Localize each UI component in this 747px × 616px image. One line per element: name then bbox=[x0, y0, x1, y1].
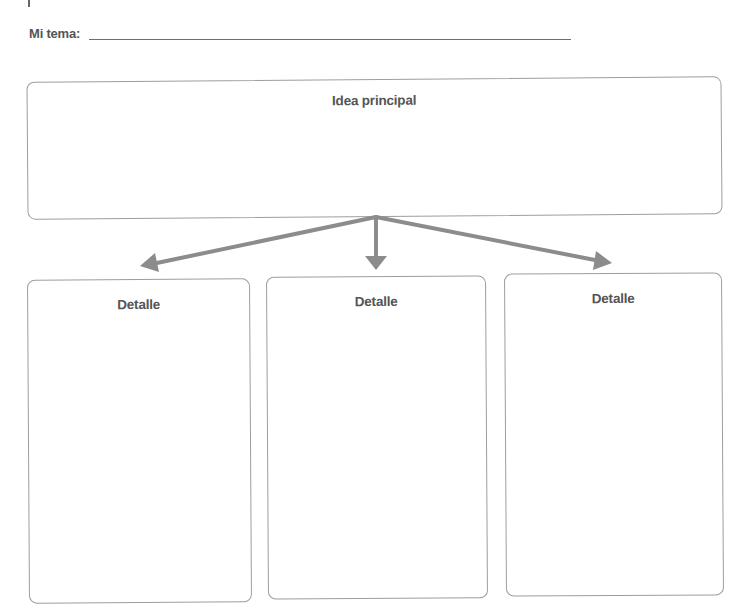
detail-box-2[interactable]: Detalle bbox=[266, 275, 488, 599]
main-idea-box[interactable]: Idea principal bbox=[26, 76, 722, 219]
detail-box-3[interactable]: Detalle bbox=[504, 272, 724, 596]
topic-label: Mi tema: bbox=[29, 26, 80, 42]
detail-title-1: Detalle bbox=[28, 296, 249, 312]
arrow-right-head-icon bbox=[593, 251, 612, 270]
topic-row: Mi tema: bbox=[29, 26, 571, 42]
arrow-left-head-icon bbox=[140, 253, 159, 272]
detail-title-2: Detalle bbox=[267, 293, 485, 309]
detail-title-3: Detalle bbox=[505, 290, 721, 306]
topic-input-line[interactable] bbox=[89, 39, 571, 40]
main-idea-title: Idea principal bbox=[28, 90, 721, 110]
detail-box-1[interactable]: Detalle bbox=[27, 278, 252, 603]
arrow-left-line bbox=[152, 217, 376, 264]
arrow-center-head-icon bbox=[365, 256, 387, 270]
page-edge-mark bbox=[28, 0, 30, 7]
arrow-right-line bbox=[376, 217, 600, 261]
